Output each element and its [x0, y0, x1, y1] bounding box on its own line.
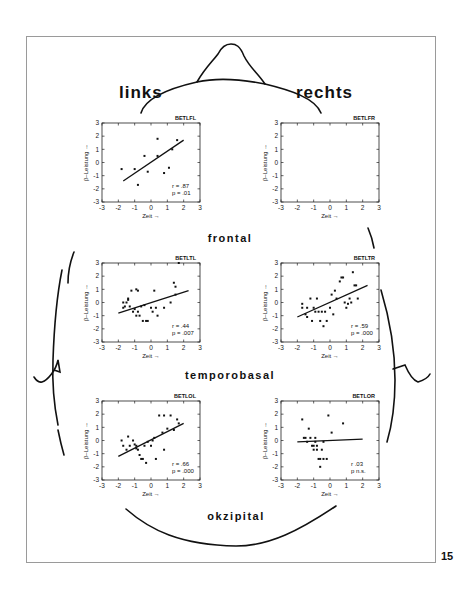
data-point: [309, 437, 311, 439]
data-point: [314, 311, 316, 313]
data-point: [178, 262, 180, 264]
data-point: [301, 307, 303, 309]
data-point: [309, 298, 311, 300]
x-axis-label: Zeit →: [142, 213, 160, 219]
data-point: [321, 311, 323, 313]
y-tick-label: 1: [95, 146, 99, 153]
y-tick-label: 2: [95, 132, 99, 139]
x-axis-label: Zeit →: [142, 353, 160, 359]
x-tick-label: 1: [166, 344, 170, 351]
x-axis-label: Zeit →: [142, 491, 160, 497]
scatter-plot-betlol: -3-2-101233210-1-2-3BETLOLZeit →β–Leistu…: [83, 393, 202, 497]
data-point: [357, 298, 359, 300]
x-tick-label: 3: [377, 482, 381, 489]
data-point: [147, 320, 149, 322]
data-point: [350, 302, 352, 304]
regression-line: [123, 140, 183, 181]
data-point: [132, 311, 134, 313]
data-point: [137, 290, 139, 292]
data-point: [313, 307, 315, 309]
x-tick-label: -3: [99, 344, 105, 351]
left-ear: [34, 360, 60, 382]
y-tick-label: -3: [93, 198, 99, 205]
y-tick-label: -3: [93, 338, 99, 345]
x-tick-label: -2: [115, 482, 121, 489]
x-tick-label: 0: [328, 482, 332, 489]
x-tick-label: 3: [198, 204, 202, 211]
plot-title: BETLTL: [175, 255, 196, 261]
data-point: [301, 303, 303, 305]
x-axis-label: Zeit →: [321, 213, 339, 219]
x-tick-label: -2: [294, 344, 300, 351]
p-value: p = .007: [172, 330, 195, 336]
data-point: [139, 454, 141, 456]
p-value: p = .01: [172, 190, 191, 196]
y-tick-label: -3: [272, 476, 278, 483]
y-tick-label: 1: [274, 286, 278, 293]
brain-topography-figure: links rechts frontal temporobasal okzipi…: [0, 0, 460, 594]
y-tick-label: 0: [95, 299, 99, 306]
data-point: [321, 449, 323, 451]
r-value: r = .59: [351, 323, 369, 329]
data-point: [152, 311, 154, 313]
x-tick-label: 2: [361, 344, 365, 351]
data-point: [324, 311, 326, 313]
data-point: [157, 138, 159, 140]
data-point: [150, 307, 152, 309]
data-point: [137, 449, 139, 451]
data-point: [345, 307, 347, 309]
y-tick-label: 0: [274, 437, 278, 444]
data-point: [168, 167, 170, 169]
r-value: r = .44: [172, 323, 190, 329]
r-value: r .03: [351, 461, 364, 467]
x-tick-label: 0: [328, 204, 332, 211]
y-tick-label: 3: [274, 259, 278, 266]
data-point: [175, 286, 177, 288]
data-point: [316, 449, 318, 451]
y-tick-label: -2: [272, 325, 278, 332]
data-point: [129, 445, 131, 447]
data-point: [163, 172, 165, 174]
data-point: [176, 418, 178, 420]
data-point: [142, 320, 144, 322]
x-axis-label: Zeit →: [321, 353, 339, 359]
x-tick-label: 2: [182, 344, 186, 351]
left-head-segment-3: [58, 430, 64, 455]
x-tick-label: -1: [311, 344, 317, 351]
p-value: p = .000: [172, 468, 195, 474]
y-tick-label: 3: [95, 397, 99, 404]
data-point: [316, 298, 318, 300]
data-point: [322, 458, 324, 460]
data-point: [352, 271, 354, 273]
data-point: [316, 445, 318, 447]
y-tick-label: 0: [274, 159, 278, 166]
data-point: [121, 440, 123, 442]
nose-outline: [197, 44, 265, 84]
plot-title: BETLTR: [354, 255, 375, 261]
data-point: [166, 428, 168, 430]
data-point: [127, 299, 129, 301]
label-rechts: rechts: [296, 83, 353, 102]
y-tick-label: 0: [95, 159, 99, 166]
y-tick-label: -2: [93, 325, 99, 332]
x-tick-label: 1: [166, 482, 170, 489]
data-point: [143, 445, 145, 447]
data-point: [163, 307, 165, 309]
plot-title: BETLFR: [353, 115, 375, 121]
data-point: [139, 315, 141, 317]
regression-line: [118, 291, 188, 313]
data-point: [319, 458, 321, 460]
data-point: [342, 276, 344, 278]
left-head-segment-2: [53, 270, 62, 425]
data-point: [329, 307, 331, 309]
data-point: [122, 302, 124, 304]
x-axis-label: Zeit →: [321, 491, 339, 497]
x-tick-label: 1: [166, 204, 170, 211]
p-value: p n.s.: [351, 468, 366, 474]
data-point: [135, 315, 137, 317]
data-point: [155, 307, 157, 309]
data-point: [314, 437, 316, 439]
r-value: r = .66: [172, 461, 190, 467]
data-point: [331, 294, 333, 296]
data-point: [311, 320, 313, 322]
